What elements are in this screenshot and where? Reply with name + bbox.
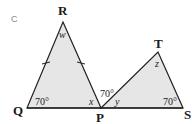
angle-label-tps: y xyxy=(114,96,120,107)
geometry-figure: C R Q P T S 70° 70° 70° w x y z xyxy=(0,0,192,124)
vertex-label-p: P xyxy=(96,110,104,124)
figure-label: C xyxy=(11,14,18,24)
angle-label-t: z xyxy=(154,58,159,69)
angle-label-rpt: 70° xyxy=(100,88,114,99)
angle-label-s: 70° xyxy=(163,96,177,107)
angle-label-rpq: x xyxy=(88,96,94,107)
vertex-label-r: R xyxy=(58,3,68,18)
vertex-label-t: T xyxy=(154,36,163,51)
angle-label-r: w xyxy=(59,29,66,40)
vertex-label-s: S xyxy=(184,107,191,122)
triangle-diagram: R Q P T S 70° 70° 70° w x y z xyxy=(0,0,192,124)
angle-label-q: 70° xyxy=(35,96,49,107)
vertex-label-q: Q xyxy=(13,103,23,118)
